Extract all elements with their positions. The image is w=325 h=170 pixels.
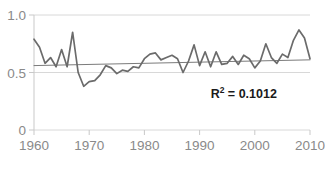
y-tick-label: 0.5	[7, 66, 26, 81]
x-tick-label: 1960	[19, 138, 49, 153]
x-tick-label: 1970	[74, 138, 104, 153]
x-tick-label: 2010	[295, 138, 325, 153]
y-tick-label: 1.0	[7, 8, 26, 23]
line-chart: 1.00.50 196019701980199020002010 R2 = 0.…	[0, 0, 325, 170]
y-tick-label: 0	[18, 123, 26, 138]
x-tick-label: 1980	[129, 138, 159, 153]
x-tick-label: 2000	[240, 138, 270, 153]
chart-container: 1.00.50 196019701980199020002010 R2 = 0.…	[0, 0, 325, 170]
r-squared-value: = 0.1012	[224, 87, 277, 101]
x-tick-label: 1990	[185, 138, 215, 153]
r-squared-prefix: R	[211, 87, 220, 101]
